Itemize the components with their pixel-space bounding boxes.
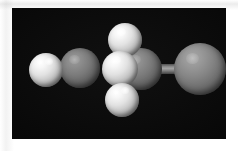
atom-hydrogen-bottom (105, 83, 139, 117)
atom-carbon-right (174, 43, 226, 95)
specular-highlight (45, 58, 53, 65)
specular-highlight (37, 59, 43, 65)
atom-hydrogen-front (102, 51, 138, 87)
specular-highlight (113, 89, 119, 95)
specular-highlight (69, 55, 80, 64)
specular-highlight (186, 53, 199, 64)
atom-hydrogen-left (29, 53, 63, 87)
screenshot-root (0, 0, 238, 151)
specular-highlight (117, 28, 126, 36)
atom-carbon-left (60, 48, 100, 88)
molecule-render-canvas (12, 8, 226, 139)
specular-highlight (121, 87, 129, 94)
specular-highlight (112, 56, 121, 64)
